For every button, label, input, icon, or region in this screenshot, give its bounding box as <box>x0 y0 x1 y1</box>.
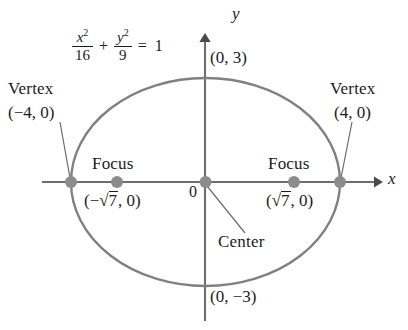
vertex-right-coordinate: (4, 0) <box>334 104 371 122</box>
focus-left-radicand: 7 <box>109 191 119 210</box>
sqrt-symbol-left-icon: √7 <box>99 190 118 210</box>
diagram-canvas <box>0 0 408 330</box>
focus-left-paren-open: (− <box>84 191 99 210</box>
focus-left-coordinate: (−√7, 0) <box>84 190 141 210</box>
equation-plus-sign: + <box>97 37 110 55</box>
focus-right-paren-close: , 0) <box>291 191 314 210</box>
vertex-left-label: Vertex <box>8 80 54 98</box>
equation-y-var: y <box>117 29 124 45</box>
x-axis-label: x <box>388 170 396 188</box>
focus-right-coordinate: (√7, 0) <box>266 190 313 210</box>
sqrt-symbol-right-icon: √7 <box>272 190 291 210</box>
point-center <box>200 176 212 188</box>
leader-line-vertex-right <box>341 122 352 178</box>
point-focus-right <box>288 176 300 188</box>
point-vertex-right <box>334 176 346 188</box>
covertex-top-label: (0, 3) <box>210 49 247 67</box>
focus-left-label: Focus <box>92 155 134 173</box>
equation-fraction-y: y2 9 <box>114 28 132 63</box>
leader-line-vertex-left <box>60 122 70 178</box>
ellipse-diagram: x2 16 + y2 9 = 1 y x 0 (0, 3) (0, −3) Ve… <box>0 0 408 330</box>
point-vertex-left <box>65 176 77 188</box>
equation-y-exponent: 2 <box>124 27 129 38</box>
covertex-bottom-label: (0, −3) <box>210 288 256 306</box>
equation-equals-sign: = <box>136 37 149 55</box>
vertex-left-coordinate: (−4, 0) <box>8 104 54 122</box>
x-axis-arrowhead <box>374 176 383 187</box>
y-axis-label: y <box>232 5 240 23</box>
equation-fraction-x: x2 16 <box>72 28 93 63</box>
center-label: Center <box>218 233 265 251</box>
focus-right-label: Focus <box>268 155 310 173</box>
leader-line-center <box>207 186 245 233</box>
point-focus-left <box>111 176 123 188</box>
equation-right-hand-side: 1 <box>153 37 165 55</box>
y-axis-arrowhead <box>199 33 210 42</box>
focus-left-paren-close: , 0) <box>118 191 141 210</box>
ellipse-equation: x2 16 + y2 9 = 1 <box>72 28 165 63</box>
equation-x-denominator: 16 <box>72 47 93 63</box>
focus-right-radicand: 7 <box>281 191 291 210</box>
equation-y-denominator: 9 <box>116 47 130 63</box>
equation-x-exponent: 2 <box>83 27 88 38</box>
origin-label: 0 <box>189 184 197 201</box>
vertex-right-label: Vertex <box>330 80 376 98</box>
